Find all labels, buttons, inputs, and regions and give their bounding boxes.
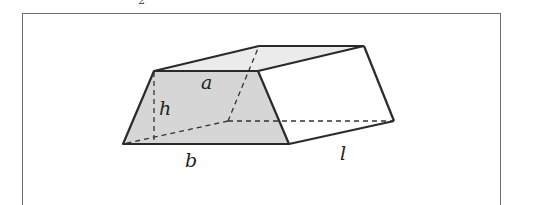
label-h: h	[159, 97, 171, 119]
label-b: b	[185, 149, 197, 171]
trapezoidal-prism-diagram: a h b l	[0, 0, 534, 205]
label-l: l	[340, 142, 346, 164]
label-a: a	[201, 71, 212, 93]
